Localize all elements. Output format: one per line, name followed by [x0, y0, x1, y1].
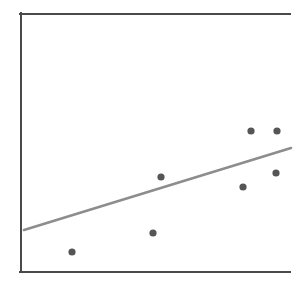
data-point — [157, 173, 164, 180]
plot-canvas — [0, 0, 305, 282]
data-point — [149, 229, 156, 236]
scatter-plot-figure — [0, 0, 305, 282]
data-point — [247, 127, 254, 134]
data-point — [273, 127, 280, 134]
data-point — [68, 248, 75, 255]
data-point — [272, 169, 279, 176]
plot-background — [0, 0, 305, 282]
data-point — [239, 183, 246, 190]
